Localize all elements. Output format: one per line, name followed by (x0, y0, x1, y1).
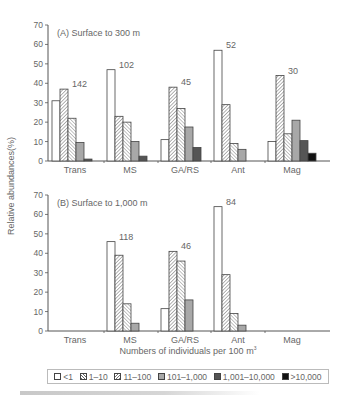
legend-swatch-light-gray-icon (158, 373, 165, 380)
group-count-annotation: 142 (72, 79, 87, 89)
bar (193, 147, 201, 161)
x-category-label: Ant (231, 165, 245, 175)
x-category-label: MS (123, 335, 137, 345)
bar (68, 118, 76, 161)
x-category-label: Trans (64, 335, 87, 345)
y-tick-label: 10 (34, 137, 44, 147)
group-count-annotation: 118 (119, 232, 133, 242)
legend-label: 11–100 (123, 372, 151, 382)
y-tick-label: 60 (34, 209, 44, 219)
y-tick-label: 40 (34, 78, 44, 88)
legend-item-11-100: 11–100 (114, 372, 151, 382)
y-tick-label: 20 (34, 287, 44, 297)
y-tick-label: 0 (38, 326, 43, 336)
bar (169, 251, 177, 331)
legend: <1 1–10 11–100 101–1,000 1,001–10,000 >1… (47, 369, 329, 384)
legend-label: 1,001–10,000 (223, 372, 275, 382)
legend-item-gt10000: >10,000 (282, 372, 322, 382)
bar (60, 89, 68, 161)
x-category-label: MS (123, 165, 137, 175)
legend-item-101-1000: 101–1,000 (158, 372, 207, 382)
y-tick-label: 10 (34, 307, 44, 317)
legend-label: >10,000 (291, 372, 322, 382)
bar (185, 127, 193, 161)
x-category-label: Mag (283, 335, 301, 345)
group-count-annotation: 102 (119, 60, 134, 70)
bar (308, 153, 316, 161)
bar (284, 134, 292, 161)
y-tick-label: 60 (34, 39, 44, 49)
page-edge-shadow (20, 391, 260, 395)
y-tick-label: 30 (34, 268, 44, 278)
legend-swatch-hatch-icon (114, 373, 121, 380)
y-tick-label: 50 (34, 59, 44, 69)
legend-item-1001-10000: 1,001–10,000 (214, 372, 275, 382)
bar (115, 255, 123, 331)
legend-swatch-white-icon (54, 373, 61, 380)
legend-swatch-dark-gray-icon (214, 373, 221, 380)
bar (161, 309, 169, 331)
legend-label: 1–10 (89, 372, 108, 382)
bar (238, 325, 246, 331)
bar (185, 300, 193, 331)
bar (177, 261, 185, 331)
y-tick-label: 30 (34, 98, 44, 108)
bar (131, 142, 139, 161)
y-tick-label: 70 (34, 190, 44, 200)
bar (222, 105, 230, 161)
x-category-label: Mag (283, 165, 301, 175)
bar (230, 314, 238, 331)
y-tick-label: 20 (34, 117, 44, 127)
bar (238, 149, 246, 161)
panel-a-chart: 010203040506070(A) Surface to 300 m142Tr… (34, 20, 330, 175)
y-tick-label: 40 (34, 248, 44, 258)
bar (268, 142, 276, 161)
bar (222, 275, 230, 331)
group-count-annotation: 46 (181, 241, 191, 251)
bar (169, 87, 177, 161)
bar (84, 159, 92, 161)
y-tick-label: 0 (38, 156, 43, 166)
group-count-annotation: 45 (181, 77, 191, 87)
bar (214, 207, 222, 331)
bar (115, 116, 123, 161)
x-axis-label: Numbers of individuals per 100 m3 (48, 345, 328, 356)
legend-item-lt1: <1 (54, 372, 73, 382)
bar (131, 323, 139, 331)
bar (107, 242, 115, 331)
group-count-annotation: 30 (288, 66, 298, 76)
legend-item-1-10: 1–10 (80, 372, 108, 382)
y-tick-label: 50 (34, 229, 44, 239)
group-count-annotation: 52 (226, 40, 236, 50)
bar (177, 109, 185, 161)
y-tick-label: 70 (34, 20, 44, 30)
y-axis-label: Relative abundances(%) (6, 126, 18, 246)
bar (292, 120, 300, 161)
bar (52, 101, 60, 161)
x-axis-label-text: Numbers of individuals per 100 m (120, 346, 254, 356)
group-count-annotation: 84 (226, 197, 236, 207)
legend-label: <1 (63, 372, 73, 382)
bar (230, 144, 238, 161)
panel-title: (B) Surface to 1,000 m (57, 198, 148, 208)
bar (214, 50, 222, 161)
bar (123, 304, 131, 331)
panel-b-chart: 010203040506070(B) Surface to 1,000 mTra… (34, 190, 330, 345)
x-category-label: Ant (231, 335, 245, 345)
x-axis-label-superscript: 3 (254, 345, 257, 351)
bar (276, 76, 284, 161)
x-category-label: Trans (64, 165, 87, 175)
panel-title: (A) Surface to 300 m (57, 28, 140, 38)
bar (76, 143, 84, 161)
bar (139, 156, 147, 161)
bar (161, 140, 169, 161)
bar (123, 122, 131, 161)
legend-swatch-dense-hatch-icon (80, 373, 87, 380)
chart-canvas: 010203040506070(A) Surface to 300 m142Tr… (0, 0, 346, 360)
bar (300, 141, 308, 161)
x-category-label: GA/RS (171, 165, 199, 175)
legend-swatch-black-icon (282, 373, 289, 380)
legend-label: 101–1,000 (167, 372, 207, 382)
x-category-label: GA/RS (171, 335, 199, 345)
bar (107, 70, 115, 161)
